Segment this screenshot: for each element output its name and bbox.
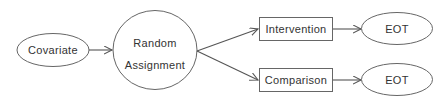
node-eot-bottom: EOT (362, 64, 433, 96)
flow-diagram: Covariate Random Assignment Intervention… (0, 0, 448, 99)
covariate-label: Covariate (28, 44, 78, 56)
edge-random-to-intervention (197, 29, 258, 51)
eot-bottom-label: EOT (385, 74, 409, 86)
node-comparison: Comparison (260, 69, 333, 92)
random-assignment-label-line1: Random (133, 37, 176, 49)
node-intervention: Intervention (260, 18, 333, 41)
node-covariate: Covariate (17, 34, 89, 67)
node-random-assignment: Random Assignment (113, 11, 197, 90)
random-assignment-label-line2: Assignment (125, 59, 185, 71)
comparison-label: Comparison (265, 74, 327, 86)
diagram-canvas: Covariate Random Assignment Intervention… (0, 0, 448, 99)
node-eot-top: EOT (362, 13, 433, 45)
intervention-label: Intervention (265, 23, 326, 35)
eot-top-label: EOT (385, 23, 409, 35)
edge-random-to-comparison (197, 51, 258, 80)
